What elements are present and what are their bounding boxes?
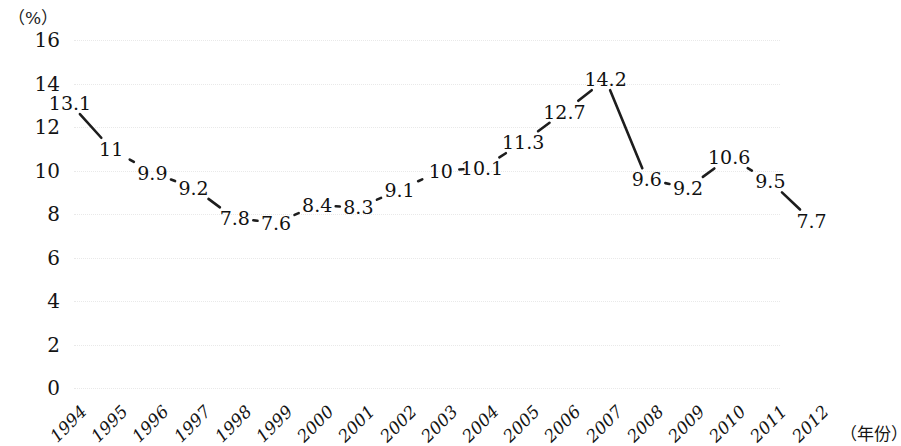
data-point-label: 9.2 [178,177,208,199]
y-axis-tick-label: 16 [14,28,60,52]
x-axis-tick-label: 1998 [211,401,256,446]
x-axis-tick-label: 2004 [458,401,503,446]
series-segment [377,198,381,200]
data-point-label: 12.7 [543,101,585,123]
x-axis-tick-label: 2009 [664,401,709,446]
data-point-label: 14.2 [584,68,626,90]
y-axis-tick-label: 4 [14,289,60,313]
x-axis-tick-label: 1995 [87,401,132,446]
series-segment [80,114,101,138]
x-axis-tick-label: 2008 [623,401,668,446]
x-axis-tick-label: 2002 [376,401,421,446]
x-axis-unit-label: （年份） [840,420,901,445]
gridline [74,345,780,347]
gridline [74,301,780,303]
data-point-label: 7.7 [796,210,826,232]
gridline [74,214,780,216]
x-axis-tick-label: 2011 [746,401,791,446]
series-segment [578,90,591,101]
series-segment [208,199,219,207]
data-point-label: 9.1 [384,179,414,201]
data-point-label: 9.2 [673,177,703,199]
series-segment [418,179,422,181]
data-point-label: 10 [429,160,453,182]
y-axis-tick-label: 8 [14,202,60,226]
y-axis-unit-label: （%） [8,4,58,29]
data-point-label: 10.1 [461,157,503,179]
gridline [74,388,780,390]
data-point-label: 10.6 [708,146,750,168]
x-axis-tick-label: 2001 [334,401,379,446]
data-point-label: 7.8 [220,207,250,229]
y-axis-tick-label: 10 [14,159,60,183]
y-axis-tick-label: 2 [14,333,60,357]
series-segment [665,183,669,184]
data-point-label: 8.3 [343,196,373,218]
data-point-label: 9.5 [755,170,785,192]
x-axis-tick-label: 2010 [705,401,750,446]
gridline [74,258,780,260]
x-axis-tick-label: 1996 [128,401,173,446]
data-point-label: 9.6 [632,168,662,190]
x-axis-tick-label: 1994 [46,401,91,446]
y-axis-tick-label: 12 [14,115,60,139]
y-axis-tick-label: 6 [14,246,60,270]
series-segment [782,192,800,209]
data-point-label: 13.1 [49,92,91,114]
x-axis-tick-label: 2012 [788,401,833,446]
data-point-label: 9.9 [137,162,167,184]
series-segment [171,180,175,182]
y-axis-tick-label: 0 [14,376,60,400]
x-axis-tick-label: 2007 [582,401,627,446]
x-axis-tick-label: 1999 [252,401,297,446]
gridline [74,171,780,173]
x-axis-tick-label: 2006 [540,401,585,446]
x-axis-tick-label: 2003 [417,401,462,446]
x-axis-tick-label: 2000 [293,401,338,446]
gridline [74,84,780,86]
data-point-label: 11.3 [502,131,544,153]
series-segment [610,90,642,168]
x-axis-tick-label: 1997 [170,401,215,446]
data-point-label: 11 [99,138,123,160]
data-point-label: 7.6 [261,212,291,234]
gridline [74,127,780,129]
data-point-label: 8.4 [302,194,332,216]
gridline [74,40,780,42]
series-segment [130,160,134,162]
x-axis-tick-label: 2005 [499,401,544,446]
